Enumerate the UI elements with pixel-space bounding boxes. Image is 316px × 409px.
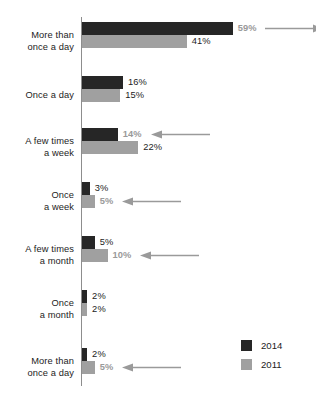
bar-2014[interactable] — [82, 236, 95, 249]
category-label-line: a month — [0, 256, 74, 268]
bar-2014[interactable] — [82, 22, 233, 35]
category-label: Once a day — [0, 90, 74, 102]
bar-2011[interactable] — [82, 89, 120, 102]
category-label: Oncea week — [0, 190, 74, 213]
bar-2014[interactable] — [82, 182, 90, 195]
bar-value-label: 10% — [113, 249, 132, 262]
category-label: Oncea month — [0, 298, 74, 321]
bar-value-label: 5% — [100, 361, 114, 374]
bar-2014[interactable] — [82, 128, 118, 141]
callout-arrow-left-icon — [121, 195, 181, 208]
category-label: A few timesa week — [0, 136, 74, 159]
category-label-line: a week — [0, 202, 74, 214]
bar-2011[interactable] — [82, 361, 95, 374]
bar-2011[interactable] — [82, 249, 108, 262]
bar-value-label: 14% — [123, 128, 142, 141]
category-label-line: once a day — [0, 42, 74, 54]
grouped-bar-chart: More thanonce a day59%41%Once a day16%15… — [0, 0, 316, 409]
bar-value-label: 15% — [125, 89, 144, 102]
callout-arrow-left-icon — [121, 361, 181, 374]
bar-value-label: 16% — [128, 76, 147, 89]
bar-2011[interactable] — [82, 195, 95, 208]
category-label-line: A few times — [0, 244, 74, 256]
category-label: More thanonce a day — [0, 30, 74, 53]
callout-arrow-left-icon — [150, 128, 210, 141]
bar-value-label: 59% — [238, 22, 257, 35]
category-label-line: A few times — [0, 136, 74, 148]
legend-label-2014: 2014 — [261, 337, 282, 354]
category-label-line: More than — [0, 356, 74, 368]
category-label-line: a week — [0, 148, 74, 160]
bar-value-label: 3% — [95, 182, 109, 195]
category-label-line: Once a day — [0, 90, 74, 102]
bar-value-label: 2% — [92, 348, 106, 361]
legend-label-2011: 2011 — [261, 356, 282, 373]
category-label: More thanonce a day — [0, 356, 74, 379]
bar-2011[interactable] — [82, 303, 87, 316]
bar-value-label: 5% — [100, 195, 114, 208]
legend-swatch-2014-icon — [241, 340, 252, 351]
bar-value-label: 5% — [100, 236, 114, 249]
category-label-line: More than — [0, 30, 74, 42]
callout-arrow-left-icon — [139, 249, 199, 262]
legend-swatch-2011-icon — [241, 359, 252, 370]
bar-value-label: 22% — [143, 141, 162, 154]
category-label-line: Once — [0, 298, 74, 310]
bar-value-label: 41% — [192, 35, 211, 48]
callout-arrow-right-icon — [265, 22, 316, 35]
category-label-line: once a day — [0, 368, 74, 380]
bar-2011[interactable] — [82, 35, 187, 48]
bar-2014[interactable] — [82, 76, 123, 89]
category-label-line: a month — [0, 310, 74, 322]
bar-2011[interactable] — [82, 141, 138, 154]
bar-2014[interactable] — [82, 348, 87, 361]
bar-value-label: 2% — [92, 290, 106, 303]
bar-2014[interactable] — [82, 290, 87, 303]
category-label: A few timesa month — [0, 244, 74, 267]
bar-value-label: 2% — [92, 303, 106, 316]
category-label-line: Once — [0, 190, 74, 202]
